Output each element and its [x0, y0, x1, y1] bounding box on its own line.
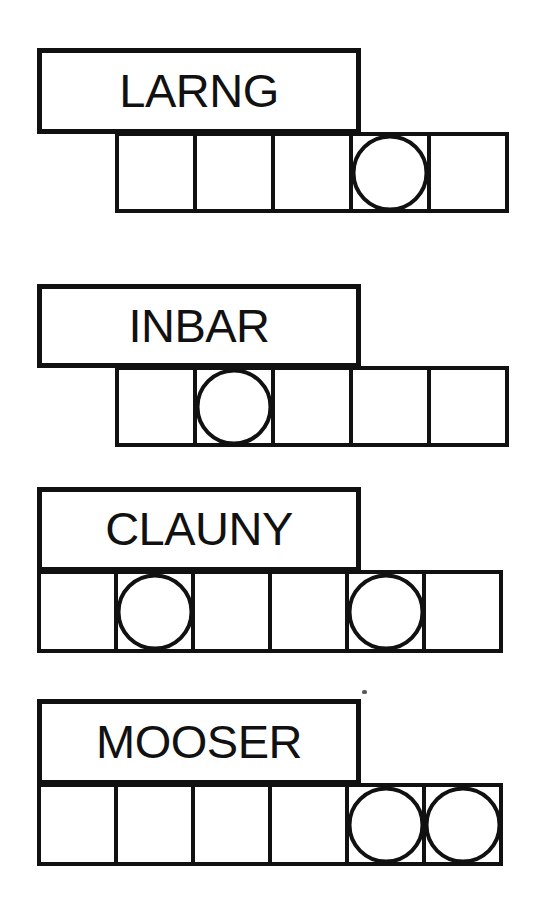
word-label-box: MOOSER	[37, 699, 361, 785]
sound-box-row	[37, 570, 503, 653]
sound-box-cell[interactable]	[193, 132, 275, 213]
circle-marker-icon	[116, 573, 193, 650]
sound-box-cell[interactable]	[115, 132, 197, 213]
sound-box-cell[interactable]	[422, 570, 503, 653]
word-label-text: CLAUNY	[105, 505, 293, 552]
sound-box-cell[interactable]	[422, 783, 503, 866]
sound-box-cell[interactable]	[115, 366, 197, 447]
sound-box-cell[interactable]	[345, 570, 426, 653]
circle-marker-icon	[352, 134, 429, 211]
sound-box-cell[interactable]	[37, 570, 118, 653]
word-label-text: INBAR	[128, 302, 269, 349]
sound-box-cell[interactable]	[271, 366, 353, 447]
sound-box-cell[interactable]	[268, 570, 349, 653]
word-label-box: CLAUNY	[37, 487, 361, 572]
circle-marker-icon	[424, 786, 501, 863]
sound-box-cell[interactable]	[349, 366, 431, 447]
sound-box-cell[interactable]	[271, 132, 353, 213]
sound-box-cell[interactable]	[427, 132, 509, 213]
sound-box-cell[interactable]	[191, 570, 272, 653]
word-label-box: LARNG	[37, 48, 361, 134]
word-label-box: INBAR	[37, 284, 361, 368]
circle-marker-icon	[347, 786, 424, 863]
sound-box-cell[interactable]	[345, 783, 426, 866]
word-label-text: LARNG	[119, 67, 278, 114]
sound-box-cell[interactable]	[114, 570, 195, 653]
circle-marker-icon	[196, 368, 273, 445]
print-speck	[362, 690, 367, 694]
sound-box-row	[37, 783, 503, 866]
sound-box-cell[interactable]	[37, 783, 118, 866]
sound-box-row	[115, 366, 509, 447]
sound-box-cell[interactable]	[114, 783, 195, 866]
sound-box-row	[115, 132, 509, 213]
sound-box-cell[interactable]	[191, 783, 272, 866]
circle-marker-icon	[347, 573, 424, 650]
sound-box-cell[interactable]	[427, 366, 509, 447]
sound-box-cell[interactable]	[268, 783, 349, 866]
sound-box-cell[interactable]	[193, 366, 275, 447]
word-label-text: MOOSER	[96, 718, 302, 765]
sound-box-cell[interactable]	[349, 132, 431, 213]
worksheet-canvas: LARNGINBARCLAUNYMOOSER	[0, 0, 555, 903]
